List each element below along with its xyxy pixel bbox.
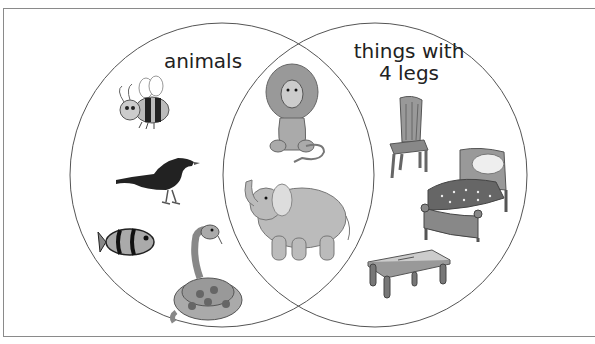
elephant-icon <box>245 180 350 260</box>
table-icon <box>368 250 450 298</box>
set-label-four-legs: things with 4 legs <box>334 40 484 84</box>
chair-icon <box>390 96 428 178</box>
set-label-animals-line-1: animals <box>148 50 258 72</box>
set-label-animals: animals <box>148 50 258 72</box>
bed-icon <box>421 148 506 242</box>
set-label-four-legs-line-2: 4 legs <box>334 62 484 84</box>
venn-diagram <box>0 0 595 344</box>
bee-icon <box>119 76 169 129</box>
clownfish-icon <box>98 229 154 255</box>
set-label-four-legs-line-1: things with <box>334 40 484 62</box>
bird-icon <box>116 158 200 204</box>
snake-icon <box>172 225 242 322</box>
lion-icon <box>266 64 324 162</box>
